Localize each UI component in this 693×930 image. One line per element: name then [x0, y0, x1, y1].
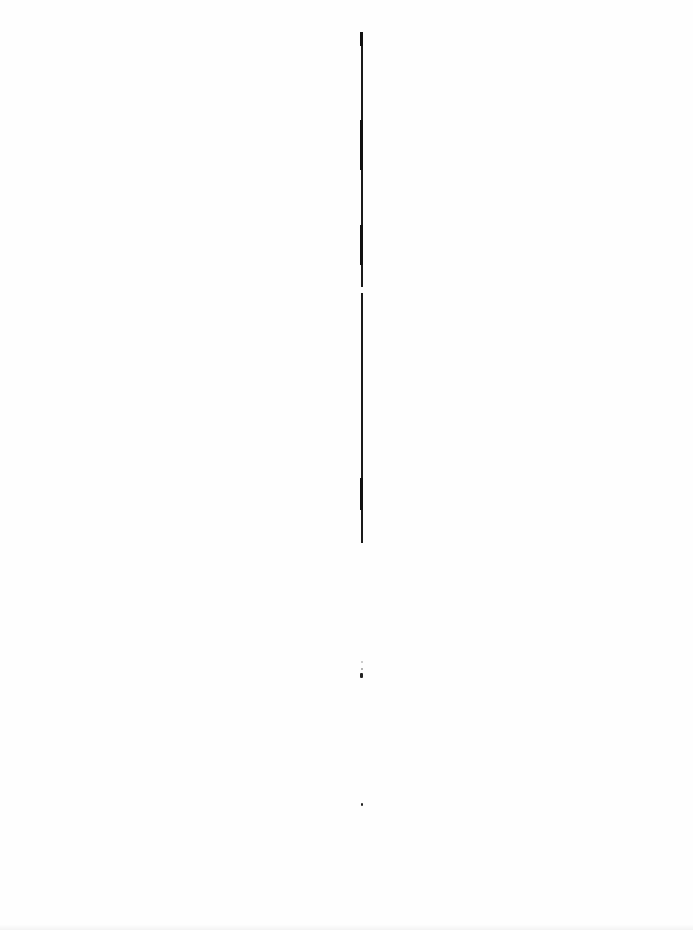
rule-thick-section: [360, 225, 363, 265]
document-page: [0, 0, 693, 930]
rule-thick-section: [360, 32, 363, 46]
rule-thick-section: [360, 120, 363, 170]
scan-mark: [361, 661, 363, 663]
scan-mark: [361, 668, 363, 670]
rule-thick-section: [360, 478, 363, 510]
scan-mark: [361, 803, 363, 806]
page-bottom-edge: [0, 924, 693, 930]
scan-mark: [360, 673, 363, 678]
